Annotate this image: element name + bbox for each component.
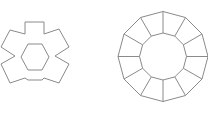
hexagon-hole	[21, 44, 49, 70]
star-outline	[1, 22, 69, 83]
dodecagon-ring	[118, 12, 208, 102]
ring-spoke	[183, 34, 202, 45]
ring-spoke	[183, 68, 202, 79]
ring-spoke	[175, 77, 186, 96]
ring-spokes	[118, 12, 208, 102]
diagram-svg	[0, 0, 208, 114]
ring-spoke	[124, 34, 143, 45]
diagram-canvas	[0, 0, 208, 114]
ring-spoke	[124, 68, 143, 79]
ring-spoke	[141, 18, 152, 37]
ring-spoke	[175, 18, 186, 37]
ring-spoke	[141, 77, 152, 96]
ring-inner-dodecagon	[140, 33, 187, 80]
star-shape	[1, 22, 69, 83]
